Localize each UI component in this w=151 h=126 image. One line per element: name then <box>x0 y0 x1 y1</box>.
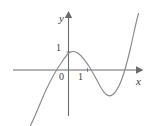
y-tick-label-1: 1 <box>56 43 61 53</box>
x-axis-arrow-icon <box>136 66 144 74</box>
coordinate-plot <box>0 0 151 126</box>
y-axis-label: y <box>59 13 64 24</box>
graph-figure: y x 1 0 1 <box>0 0 151 126</box>
y-axis <box>65 11 72 116</box>
x-tick-label-1: 1 <box>78 72 83 82</box>
y-axis-arrow-icon <box>65 11 72 18</box>
x-axis-label: x <box>136 76 141 87</box>
tick-marks <box>67 52 88 72</box>
origin-label: 0 <box>59 72 64 82</box>
